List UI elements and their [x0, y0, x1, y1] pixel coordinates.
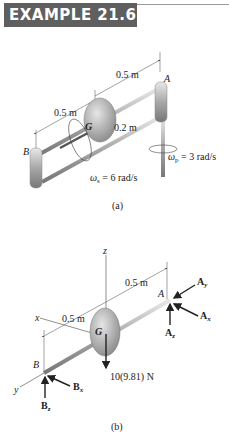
omega-s-label: ωs = 6 rad/s	[90, 172, 137, 185]
figure-a: 0.5 m 0.5 m 0.2 m A B G ωs = 6 rad/s ωp …	[23, 52, 216, 212]
axis-z: z	[102, 245, 107, 256]
point-g-a: G	[85, 121, 93, 132]
force-az: Az	[165, 327, 175, 340]
axis-y: y	[13, 384, 19, 395]
point-a-a: A	[163, 73, 171, 84]
dim-left-b: 0.5 m	[62, 313, 85, 324]
dim-top-a: 0.5 m	[116, 69, 139, 80]
omega-p-label: ωp = 3 rad/s	[168, 151, 216, 164]
caption-a: (a)	[112, 200, 123, 212]
force-bx: Bx	[73, 381, 84, 394]
point-g-b: G	[95, 326, 103, 337]
weight-label: 10(9.81) N	[110, 371, 154, 383]
figures: 0.5 m 0.5 m 0.2 m A B G ωs = 6 rad/s ωp …	[0, 0, 229, 446]
radius-a: 0.2 m	[114, 122, 137, 133]
point-b-b: B	[33, 359, 39, 370]
point-a-b: A	[157, 288, 165, 299]
force-bz: Bz	[41, 400, 51, 413]
dim-right-b: 0.5 m	[125, 277, 148, 288]
axis-x: x	[34, 312, 40, 323]
force-ay: Ay	[197, 276, 208, 289]
force-ax: Ax	[200, 310, 211, 323]
caption-b: (b)	[111, 421, 123, 433]
figure-b: z x y 0.5 m 0.5 m A B G 10(9.81) N Ay Ax…	[13, 245, 211, 433]
point-b-a: B	[23, 146, 29, 157]
dim-left-a: 0.5 m	[54, 107, 77, 118]
